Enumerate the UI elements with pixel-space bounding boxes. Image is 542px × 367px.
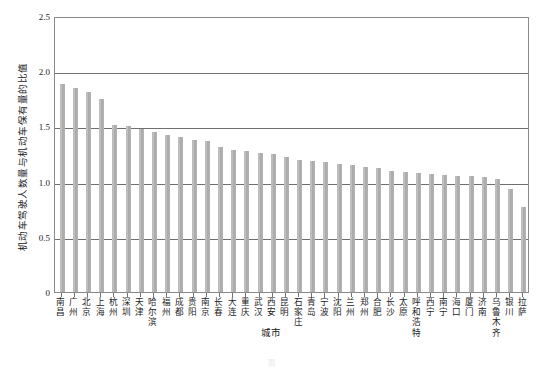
bar [495,179,500,292]
bar [231,150,236,292]
x-axis-tick-label: 武汉 [253,297,264,317]
x-axis-tick-label: 天津 [134,297,145,317]
x-axis-tick-label: 沈阳 [332,297,343,317]
figure-caption: 图 [0,357,542,367]
bar [376,168,381,292]
x-axis-tick-label: 西宁 [425,297,436,317]
x-axis-tick-label: 青岛 [306,297,317,317]
bar [112,125,117,292]
bar [297,160,302,292]
bar [205,141,210,292]
x-axis-tick-label: 南京 [200,297,211,317]
x-axis-tick-label: 合肥 [372,297,383,317]
x-axis-tick-label: 北京 [81,297,92,317]
bar [152,132,157,292]
bar [284,157,289,292]
x-axis-tick-label: 上海 [95,297,106,317]
bar [178,137,183,292]
x-axis-tick-label: 长沙 [385,297,396,317]
y-axis-tick-label: 2.5 [18,12,50,22]
x-axis-tick-label: 贵阳 [187,297,198,317]
x-axis-tick-label: 大连 [227,297,238,317]
x-axis-tick-label: 哈尔滨 [147,297,158,328]
x-axis-tick-label: 西安 [266,297,277,317]
x-axis-tick-label: 福州 [161,297,172,317]
x-axis-tick-label: 昆明 [279,297,290,317]
bar [244,151,249,292]
bar [350,165,355,292]
bar [323,162,328,292]
bar [139,129,144,292]
y-axis-tick-label: 1.5 [18,122,50,132]
bar [469,176,474,292]
bar [429,174,434,292]
bar [521,207,526,292]
x-axis-tick-label: 长春 [213,297,224,317]
bar [455,176,460,292]
x-axis-tick-label: 杭州 [108,297,119,317]
y-axis-tick-label: 2.0 [18,67,50,77]
x-axis-tick-label: 成都 [174,297,185,317]
x-axis-tick-label: 海口 [451,297,462,317]
x-axis-tick-label: 兰州 [345,297,356,317]
bar [218,147,223,292]
x-axis-title: 城市 [0,325,542,339]
bar [403,172,408,292]
x-axis-tick-label: 重庆 [240,297,251,317]
x-axis-tick-label: 太原 [398,297,409,317]
bar [416,173,421,292]
bars-layer [55,18,528,292]
bar [86,92,91,292]
x-axis-tick-label: 拉萨 [517,297,528,317]
plot-area [54,17,529,293]
x-axis-tick-label: 南宁 [438,297,449,317]
bar [99,99,104,292]
bar [192,140,197,292]
bar [337,164,342,292]
bar [258,153,263,292]
bar [310,161,315,292]
bar [389,171,394,292]
bar [482,177,487,292]
x-axis-tick-label: 深圳 [121,297,132,317]
x-axis-tick-label: 郑州 [359,297,370,317]
bar [271,154,276,292]
bar [363,167,368,292]
x-axis-tick-labels: 南昌广州北京上海杭州深圳天津哈尔滨福州成都贵阳南京长春大连重庆武汉西安昆明石家庄… [54,297,529,349]
x-axis-tick-label: 宁波 [319,297,330,317]
x-axis-tick-label: 广州 [68,297,79,317]
bar [73,88,78,292]
y-axis-tick-label: 0.5 [18,233,50,243]
y-axis-tick-labels: 00.51.01.52.02.5 [18,0,50,365]
bar [126,126,131,292]
x-axis-tick-label: 南昌 [55,297,66,317]
bar [60,84,65,292]
y-axis-tick-label: 0 [18,288,50,298]
x-axis-tick-label: 银川 [504,297,515,317]
bar [442,175,447,292]
x-axis-tick-label: 石家庄 [293,297,304,328]
bar [508,189,513,292]
y-axis-tick-label: 1.0 [18,178,50,188]
x-axis-tick-label: 厦门 [464,297,475,317]
bar [165,135,170,292]
x-axis-tick-label: 济南 [477,297,488,317]
